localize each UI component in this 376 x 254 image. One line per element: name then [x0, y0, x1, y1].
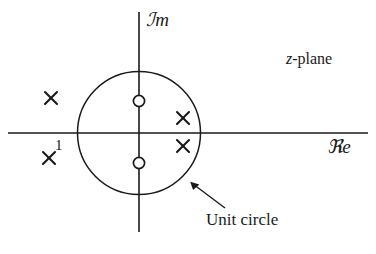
z-plane-figure [0, 0, 376, 254]
plane-label-suffix: -plane [292, 50, 332, 67]
figure-background [0, 0, 376, 254]
zero-marker-upper [133, 95, 144, 106]
unit-tick-label: 1 [55, 138, 63, 153]
plane-label: z-plane [286, 51, 332, 67]
real-axis-label: ℜe [327, 137, 351, 156]
imaginary-axis-label: ℐm [146, 10, 169, 29]
zero-marker-lower [133, 157, 144, 168]
unit-circle-annotation-label: Unit circle [206, 211, 278, 228]
